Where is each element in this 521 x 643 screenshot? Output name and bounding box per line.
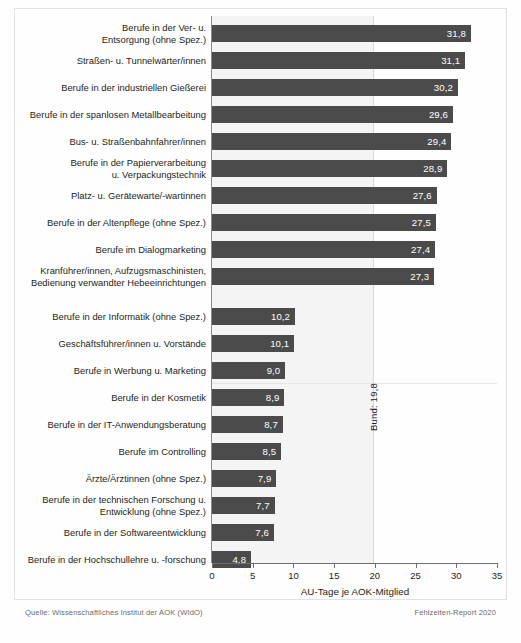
category-label-line: Berufe in Werbung u. Marketing xyxy=(12,365,206,376)
bar[interactable] xyxy=(212,268,434,285)
category-label-line: Berufe in der Altenpflege (ohne Spez.) xyxy=(12,217,206,228)
bar-row[interactable]: 27,5 xyxy=(212,214,436,231)
bar[interactable] xyxy=(212,241,435,258)
category-label: Ärzte/Ärztinnen (ohne Spez.) xyxy=(12,473,212,484)
x-axis-tick-label: 30 xyxy=(451,570,462,581)
category-label: Platz- u. Gerätewarte/-wartinnen xyxy=(12,190,212,201)
category-label-line: Berufe in der Informatik (ohne Spez.) xyxy=(12,311,206,322)
bar-value-label: 31,8 xyxy=(447,25,466,42)
bar-row[interactable]: 31,8 xyxy=(212,25,471,42)
x-axis-tick-label: 20 xyxy=(370,570,381,581)
x-axis-tick-label: 5 xyxy=(250,570,255,581)
bar-value-label: 7,7 xyxy=(256,497,270,514)
x-axis-tick-label: 0 xyxy=(209,570,214,581)
x-axis-tick xyxy=(456,563,457,568)
bund-reference-label: Bund: 19,8 xyxy=(368,383,379,431)
category-label: Berufe in der spanlosen Metallbearbeitun… xyxy=(12,109,212,120)
bar-row[interactable]: 9,0 xyxy=(212,362,285,379)
x-axis-tick-label: 25 xyxy=(410,570,421,581)
bar-row[interactable]: 27,3 xyxy=(212,268,434,285)
category-label: Berufe in der Informatik (ohne Spez.) xyxy=(12,311,212,322)
bar-value-label: 9,0 xyxy=(267,362,281,379)
bar-row[interactable]: 4,8 xyxy=(212,551,251,568)
category-label-line: Entsorgung (ohne Spez.) xyxy=(12,34,206,45)
x-axis-tick xyxy=(212,563,213,568)
figure: Berufe in der Ver- u.Entsorgung (ohne Sp… xyxy=(0,0,521,643)
category-label: Berufe in Werbung u. Marketing xyxy=(12,365,212,376)
bar-row[interactable]: 7,7 xyxy=(212,497,275,514)
category-label: Berufe im Dialogmarketing xyxy=(12,244,212,255)
bar[interactable] xyxy=(212,214,436,231)
bar-row[interactable]: 8,5 xyxy=(212,443,281,460)
bar-value-label: 27,4 xyxy=(411,241,430,258)
bar-value-label: 27,6 xyxy=(413,187,432,204)
category-label: Berufe in der technischen Forschung u.En… xyxy=(12,494,212,517)
category-label-line: Platz- u. Gerätewarte/-wartinnen xyxy=(12,190,206,201)
category-label: Berufe in der Kosmetik xyxy=(12,392,212,403)
bar[interactable] xyxy=(212,106,453,123)
category-label-line: Berufe in der Papierverarbeitung xyxy=(12,157,206,168)
bar-value-label: 8,9 xyxy=(266,389,280,406)
category-label-line: Geschäftsführer/innen u. Vorstände xyxy=(12,338,206,349)
bar-row[interactable]: 8,9 xyxy=(212,389,284,406)
bar[interactable] xyxy=(212,52,465,69)
bar-value-label: 30,2 xyxy=(434,79,453,96)
x-axis-tick xyxy=(497,563,498,568)
group-separator-line xyxy=(212,383,497,384)
bar-row[interactable]: 29,6 xyxy=(212,106,453,123)
report-note: Fehlzeiten-Report 2020 xyxy=(414,608,496,617)
category-label-line: Entwicklung (ohne Spez.) xyxy=(12,506,206,517)
category-label: Berufe im Controlling xyxy=(12,446,212,457)
category-label: Berufe in der Hochschullehre u. -forschu… xyxy=(12,554,212,565)
category-label-line: Bedienung verwandter Hebeeinrichtungen xyxy=(12,277,206,288)
bar-value-label: 10,2 xyxy=(271,308,290,325)
bar-row[interactable]: 7,9 xyxy=(212,470,276,487)
category-label: Kranführer/innen, Aufzugsmaschinisten,Be… xyxy=(12,265,212,288)
bar-row[interactable]: 7,6 xyxy=(212,524,274,541)
bund-reference-line xyxy=(373,16,374,563)
category-label: Berufe in der IT-Anwendungsberatung xyxy=(12,419,212,430)
bar-value-label: 10,1 xyxy=(270,335,289,352)
bar[interactable] xyxy=(212,187,437,204)
bar-value-label: 29,6 xyxy=(429,106,448,123)
category-label: Berufe in der Softwareentwicklung xyxy=(12,527,212,538)
x-axis-tick-label: 15 xyxy=(329,570,340,581)
bar-row[interactable]: 27,4 xyxy=(212,241,435,258)
bar-row[interactable]: 10,1 xyxy=(212,335,294,352)
category-label-line: Berufe in der industriellen Gießerei xyxy=(12,82,206,93)
bar-row[interactable]: 29,4 xyxy=(212,133,451,150)
bar-value-label: 8,5 xyxy=(263,443,277,460)
category-label-line: u. Verpackungstechnik xyxy=(12,169,206,180)
bar-row[interactable]: 10,2 xyxy=(212,308,295,325)
source-note: Quelle: Wissenschaftliches Institut der … xyxy=(25,608,203,617)
category-label-column: Berufe in der Ver- u.Entsorgung (ohne Sp… xyxy=(6,16,212,563)
bar[interactable] xyxy=(212,133,451,150)
category-label-line: Berufe in der technischen Forschung u. xyxy=(12,494,206,505)
bar[interactable] xyxy=(212,160,447,177)
bar-row[interactable]: 28,9 xyxy=(212,160,447,177)
x-axis-tick xyxy=(293,563,294,568)
category-label-line: Berufe in der Kosmetik xyxy=(12,392,206,403)
plot-area: Bund: 19,8 31,831,130,229,629,428,927,62… xyxy=(212,16,497,563)
category-label-line: Berufe in der Softwareentwicklung xyxy=(12,527,206,538)
category-label-line: Berufe im Controlling xyxy=(12,446,206,457)
category-label: Berufe in der industriellen Gießerei xyxy=(12,82,212,93)
bar-value-label: 28,9 xyxy=(423,160,442,177)
bar-value-label: 27,3 xyxy=(410,268,429,285)
bar[interactable] xyxy=(212,25,471,42)
x-axis-tick xyxy=(334,563,335,568)
category-label-line: Straßen- u. Tunnelwärter/innen xyxy=(12,55,206,66)
category-label: Geschäftsführer/innen u. Vorstände xyxy=(12,338,212,349)
bar[interactable] xyxy=(212,79,458,96)
category-label: Berufe in der Ver- u.Entsorgung (ohne Sp… xyxy=(12,22,212,45)
bar-value-label: 7,6 xyxy=(255,524,269,541)
x-axis-tick xyxy=(253,563,254,568)
bar-value-label: 4,8 xyxy=(232,551,246,568)
bar-row[interactable]: 27,6 xyxy=(212,187,437,204)
category-label-line: Berufe in der Ver- u. xyxy=(12,22,206,33)
bar-row[interactable]: 31,1 xyxy=(212,52,465,69)
category-label-line: Bus- u. Straßenbahnfahrer/innen xyxy=(12,136,206,147)
bar-value-label: 7,9 xyxy=(258,470,272,487)
bar-row[interactable]: 30,2 xyxy=(212,79,458,96)
bar-row[interactable]: 8,7 xyxy=(212,416,283,433)
